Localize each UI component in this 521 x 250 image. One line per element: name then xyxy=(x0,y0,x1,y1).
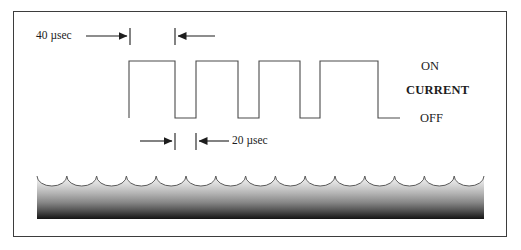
bead-scallop-edge xyxy=(37,176,484,186)
signal-label-current: CURRENT xyxy=(406,84,469,97)
diagram-graphics xyxy=(0,0,521,250)
figure-pulsed-current-diagram: 40 µsec 20 µsec ON CURRENT OFF xyxy=(0,0,521,250)
dimension-40usec xyxy=(86,28,215,45)
weld-bead-profile xyxy=(37,176,484,219)
dimension-label-40usec: 40 µsec xyxy=(36,30,72,42)
dimension-20usec xyxy=(140,133,229,150)
axis-label-on: ON xyxy=(421,60,439,73)
current-waveform-trace xyxy=(129,61,400,118)
axis-label-off: OFF xyxy=(420,112,443,125)
dimension-label-20usec: 20 µsec xyxy=(232,135,268,147)
